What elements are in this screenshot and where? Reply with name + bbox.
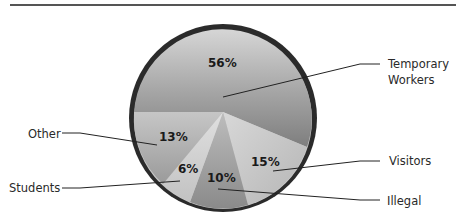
pie-chart: 56% 13% 6% 10% 15% Temporary Workers Vis…: [0, 0, 461, 220]
label-temporary-line2: Workers: [388, 73, 435, 87]
label-temporary-line1: Temporary: [387, 57, 449, 71]
label-illegal: Illegal: [387, 194, 421, 208]
label-students: Students: [9, 181, 60, 195]
label-other: Other: [28, 127, 61, 141]
pct-temporary-workers: 56%: [208, 56, 237, 70]
pct-other: 13%: [159, 130, 188, 144]
pct-students: 6%: [178, 162, 198, 176]
pct-illegal: 10%: [207, 171, 236, 185]
pct-visitors: 15%: [251, 155, 280, 169]
label-visitors: Visitors: [389, 154, 431, 168]
